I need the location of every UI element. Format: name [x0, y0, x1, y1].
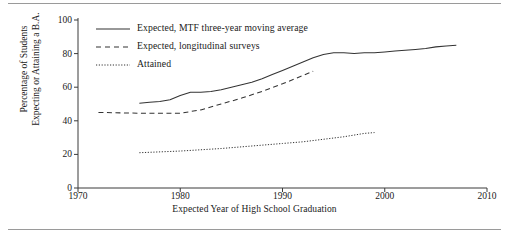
x-tick-label-2010: 2010 [478, 191, 497, 201]
line-chart-plot [0, 0, 509, 237]
series-line-2 [139, 133, 374, 153]
legend-label-0: Expected, MTF three-year moving average [137, 22, 308, 33]
legend-label-2: Attained [137, 58, 171, 69]
y-tick-label-60: 60 [44, 82, 72, 92]
x-tick-label-2000: 2000 [375, 191, 394, 201]
y-tick-label-40: 40 [44, 116, 72, 126]
x-axis-title: Expected Year of High School Graduation [0, 204, 509, 214]
legend-label-1: Expected, longitudinal surveys [137, 40, 260, 51]
y-tick-label-0: 0 [44, 183, 72, 193]
y-axis-title: Percentage of Students Expecting or Atta… [17, 0, 43, 159]
tick-marks [74, 20, 487, 192]
y-tick-label-20: 20 [44, 149, 72, 159]
y-axis-title-line-1: Percentage of Students [18, 25, 31, 112]
y-tick-label-100: 100 [44, 15, 72, 25]
y-tick-label-80: 80 [44, 49, 72, 59]
x-tick-label-1980: 1980 [171, 191, 190, 201]
x-tick-label-1990: 1990 [273, 191, 292, 201]
y-axis-title-line-2: Expecting or Attaining a B.A. [30, 12, 43, 125]
legend-line-swatches [96, 29, 130, 65]
series-line-0 [139, 45, 456, 103]
figure-container: Expected Year of High School Graduation … [0, 0, 509, 237]
